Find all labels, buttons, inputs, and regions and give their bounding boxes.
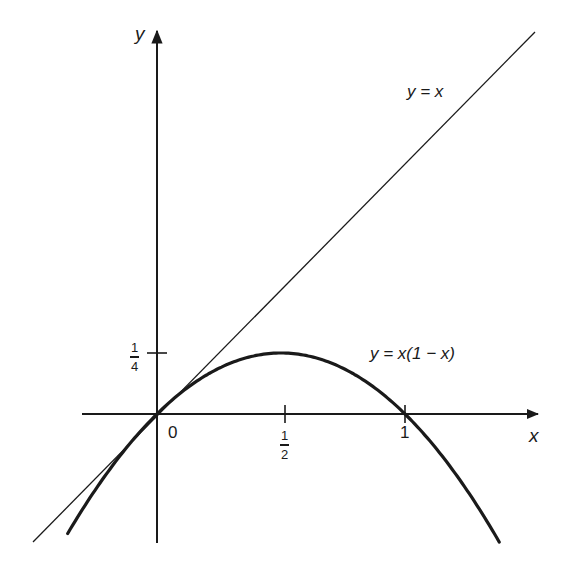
origin-label: 0 bbox=[168, 423, 177, 443]
identity-line bbox=[33, 32, 535, 542]
fraction-denominator: 2 bbox=[281, 448, 288, 461]
fraction-denominator: 4 bbox=[131, 360, 138, 373]
fraction-numerator: 1 bbox=[131, 341, 138, 354]
x-tick-label-half: 1 2 bbox=[280, 429, 289, 461]
fraction-numerator: 1 bbox=[281, 429, 288, 442]
identity-line-label: y = x bbox=[407, 82, 443, 102]
y-tick-label-quarter: 1 4 bbox=[130, 341, 139, 373]
function-plot bbox=[0, 0, 566, 574]
y-axis-label: y bbox=[135, 23, 145, 45]
fraction-bar bbox=[130, 356, 139, 358]
x-axis-label: x bbox=[529, 425, 539, 447]
parabola-label: y = x(1 − x) bbox=[370, 344, 455, 364]
fraction-bar bbox=[280, 444, 289, 446]
x-tick-label-one: 1 bbox=[400, 423, 409, 443]
